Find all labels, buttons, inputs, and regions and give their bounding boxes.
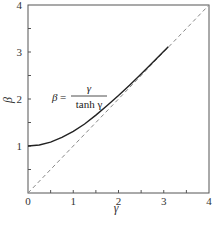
- formula-denominator: tanh γ: [76, 98, 103, 110]
- formula-lhs: β: [51, 91, 58, 103]
- x-tick-label: 0: [25, 195, 31, 207]
- x-axis-title: γ: [114, 201, 119, 215]
- y-tick-label: 2: [17, 93, 23, 105]
- chart: 01234 1234 γ β β = γ tanh γ: [0, 0, 217, 232]
- formula-numerator: γ: [87, 82, 92, 94]
- x-tick-label: 3: [161, 195, 167, 207]
- x-tick-labels: 01234: [25, 195, 212, 207]
- formula-equals: =: [60, 91, 66, 103]
- y-tick-label: 3: [17, 46, 23, 58]
- x-tick-label: 1: [71, 195, 77, 207]
- y-axis-title: β: [1, 97, 15, 104]
- x-tick-label: 4: [206, 195, 212, 207]
- y-tick-label: 4: [17, 0, 23, 11]
- formula-annotation: β = γ tanh γ: [51, 82, 107, 110]
- y-tick-label: 1: [17, 140, 23, 152]
- y-tick-labels: 1234: [17, 0, 23, 152]
